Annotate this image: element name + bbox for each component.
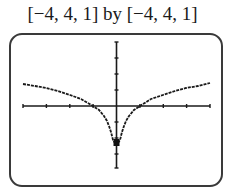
graph-plot	[0, 0, 225, 195]
lowest-point-marker	[114, 139, 120, 146]
